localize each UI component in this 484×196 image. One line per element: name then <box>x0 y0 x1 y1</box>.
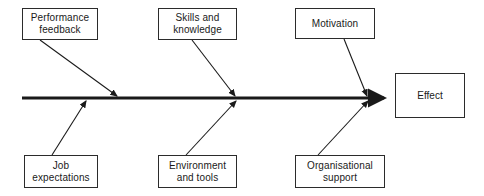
bone-job-expectations <box>52 101 86 155</box>
bone-skills-and-knowledge <box>192 40 235 96</box>
cause-box-organisational-support[interactable]: Organisational support <box>295 155 385 188</box>
bone-performance-feedback <box>40 40 117 96</box>
bone-environment-and-tools <box>186 101 236 155</box>
fishbone-diagram: Performance feedback Skills and knowledg… <box>0 0 484 196</box>
cause-label-motivation: Motivation <box>309 18 362 30</box>
cause-box-motivation[interactable]: Motivation <box>295 8 375 39</box>
cause-box-environment-and-tools[interactable]: Environment and tools <box>158 155 237 188</box>
cause-label-performance-feedback: Performance feedback <box>28 12 92 36</box>
cause-box-skills-and-knowledge[interactable]: Skills and knowledge <box>158 8 237 40</box>
effect-label: Effect <box>414 90 445 102</box>
bone-organisational-support <box>318 101 368 155</box>
cause-box-performance-feedback[interactable]: Performance feedback <box>22 8 98 40</box>
cause-label-environment-and-tools: Environment and tools <box>166 160 229 184</box>
bone-motivation <box>344 39 367 96</box>
cause-label-job-expectations: Job expectations <box>29 160 92 184</box>
cause-label-skills-and-knowledge: Skills and knowledge <box>170 12 225 36</box>
cause-box-job-expectations[interactable]: Job expectations <box>24 155 98 188</box>
effect-box[interactable]: Effect <box>395 73 465 118</box>
cause-label-organisational-support: Organisational support <box>304 160 376 184</box>
